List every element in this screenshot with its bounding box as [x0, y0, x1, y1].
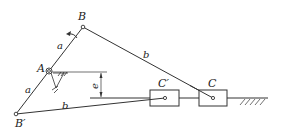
link-ab-prime: [16, 71, 49, 114]
link-b-prime-c-prime: [16, 98, 165, 114]
label-link-ab: a: [57, 40, 63, 51]
label-c: C: [208, 77, 217, 90]
label-offset-e: e: [89, 83, 100, 89]
diagram-canvas: B A B′ C′ C a a b b e: [0, 0, 283, 134]
link-ab: [49, 27, 83, 71]
label-c-prime: C′: [158, 77, 169, 90]
label-link-b-prime-c-prime: b: [62, 100, 68, 111]
label-b: B: [77, 10, 86, 23]
joint-a: [48, 70, 51, 73]
label-a: A: [36, 62, 45, 75]
joint-c: [211, 96, 214, 99]
fixed-pivot-icon: [51, 72, 68, 93]
joint-b: [81, 25, 85, 29]
label-link-bc: b: [143, 49, 149, 60]
label-b-prime: B′: [14, 117, 26, 130]
joint-c-prime: [163, 96, 166, 99]
ground-hatch-icon: [240, 99, 265, 105]
joint-b-prime: [14, 112, 18, 116]
mechanism-diagram: B A B′ C′ C a a b b e: [0, 0, 283, 134]
label-link-ab-prime: a: [25, 84, 31, 95]
